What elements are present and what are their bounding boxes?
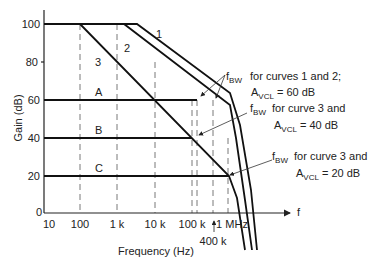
svg-text:for curve 3 and: for curve 3 and [294,150,367,162]
svg-text:A: A [95,86,103,98]
svg-text:fBW: fBW [226,70,242,85]
x-tick-labels: 10 100 1 k 10 k 100 k 1 MHz 400 k [43,218,248,247]
annotation-fbw-20db: fBW for curve 3 and AVCL= 20 dB [272,150,367,182]
svg-text:40: 40 [28,132,40,144]
svg-text:1 k: 1 k [110,218,125,230]
annotation-fbw-40db: fBW for curve 3 and AVCL= 40 dB [250,102,345,134]
svg-text:AVCL= 40 dB: AVCL= 40 dB [274,119,338,134]
x-axis-end-label: f [297,206,301,218]
svg-text:fBW: fBW [250,102,266,117]
svg-text:for curve 3 and: for curve 3 and [272,102,345,114]
svg-text:1 MHz: 1 MHz [216,218,248,230]
dashed-gridlines [80,24,228,213]
svg-text:for curves 1 and 2;: for curves 1 and 2; [250,70,341,82]
curve-2 [44,24,252,250]
svg-text:10: 10 [43,218,55,230]
y-axis-label: Gain (dB) [12,94,24,141]
curve-1 [44,24,257,250]
svg-text:B: B [95,124,102,136]
svg-text:AVCL= 60 dB: AVCL= 60 dB [251,86,315,101]
svg-text:80: 80 [26,56,38,68]
svg-text:10 k: 10 k [145,218,166,230]
svg-text:AVCL= 20 dB: AVCL= 20 dB [296,167,360,182]
annotation-fbw-60db: fBW for curves 1 and 2; AVCL= 60 dB [226,70,341,101]
svg-text:2: 2 [124,42,130,54]
svg-text:3: 3 [95,56,101,68]
gain-frequency-chart: 100 80 60 40 20 0 Gain (dB) 10 100 1 k 1… [0,0,368,272]
x-axis-label: Frequency (Hz) [118,245,194,257]
svg-text:100: 100 [71,218,89,230]
svg-text:100 k: 100 k [179,218,206,230]
svg-text:60: 60 [28,94,40,106]
curve-3 [80,24,245,250]
curves [44,24,257,250]
svg-text:fBW: fBW [272,150,288,165]
svg-text:1: 1 [156,28,162,40]
svg-text:400 k: 400 k [200,235,227,247]
svg-text:100: 100 [22,18,40,30]
svg-text:20: 20 [28,170,40,182]
svg-text:0: 0 [36,206,42,218]
y-tick-labels: 100 80 60 40 20 0 [22,18,42,218]
svg-text:C: C [95,162,103,174]
